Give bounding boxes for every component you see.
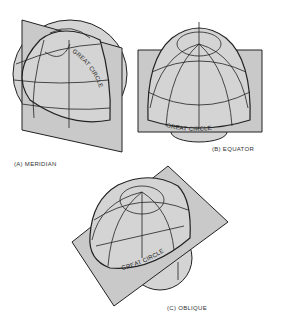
caption-oblique: (C) OBLIQUE <box>167 305 207 311</box>
great-circle-diagram: GREAT CIRCLE (A) MERIDIAN GREAT CIRCLE (… <box>0 0 283 324</box>
panel-equator: GREAT CIRCLE <box>138 22 262 142</box>
panel-meridian: GREAT CIRCLE <box>13 20 127 152</box>
caption-meridian: (A) MERIDIAN <box>14 161 57 167</box>
panel-oblique: GREAT CIRCLE <box>72 166 228 306</box>
caption-equator: (B) EQUATOR <box>212 146 254 152</box>
